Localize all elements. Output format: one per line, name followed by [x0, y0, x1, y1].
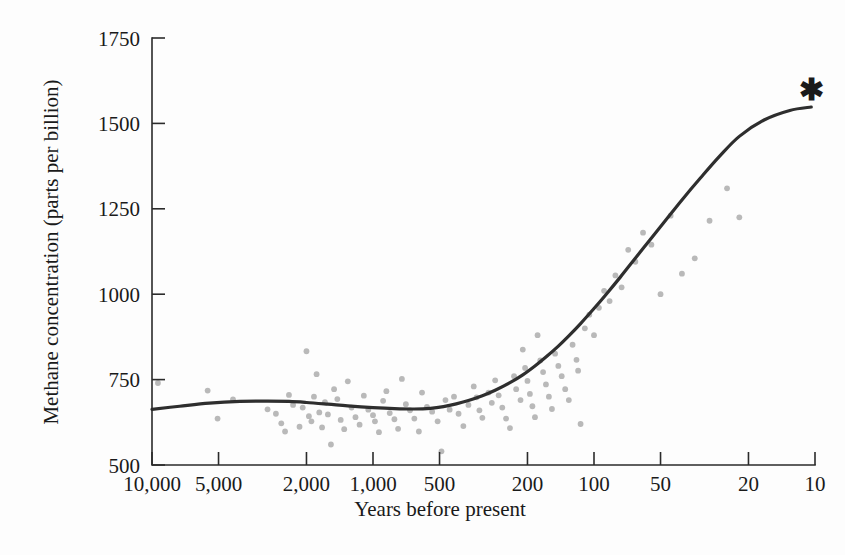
scatter-point [383, 388, 389, 394]
scatter-point [489, 400, 495, 406]
scatter-point [736, 214, 742, 220]
scatter-point [549, 406, 555, 412]
scatter-point [338, 417, 344, 423]
x-tick-label: 100 [578, 472, 610, 496]
scatter-point [679, 271, 685, 277]
scatter-point [535, 332, 541, 338]
scatter-point [319, 425, 325, 431]
scatter-point [341, 426, 347, 432]
scatter-point [306, 413, 312, 419]
scatter-point [692, 255, 698, 261]
scatter-point [265, 406, 271, 412]
scatter-point [403, 401, 409, 407]
x-tick-label: 10 [805, 472, 826, 496]
scatter-point [361, 393, 367, 399]
scatter-point [278, 420, 284, 426]
scatter-point [460, 423, 466, 429]
methane-concentration-chart: 5007501000125015001750 10,0005,0002,0001… [0, 0, 845, 555]
scatter-point [520, 347, 526, 353]
scatter-point [309, 418, 315, 424]
y-tick-label: 1250 [98, 197, 140, 221]
scatter-point [300, 405, 306, 411]
y-tick-label: 1500 [98, 112, 140, 136]
scatter-point [357, 422, 363, 428]
scatter-point [314, 371, 320, 377]
scatter-point [527, 391, 533, 397]
scatter-point [435, 418, 441, 424]
scatter-point [399, 376, 405, 382]
scatter-point [392, 416, 398, 422]
x-tick-label: 20 [738, 472, 759, 496]
scatter-point [325, 412, 331, 418]
scatter-point [334, 396, 340, 402]
scatter-point [591, 332, 597, 338]
scatter-point [507, 425, 513, 431]
x-tick-label: 1,000 [349, 472, 396, 496]
scatter-point [513, 386, 519, 392]
scatter-point [456, 411, 462, 417]
scatter-point [724, 185, 730, 191]
scatter-point [543, 381, 549, 387]
scatter-point [499, 405, 505, 411]
scatter-point [372, 418, 378, 424]
scatter-point [205, 388, 211, 394]
scatter-point [411, 416, 417, 422]
scatter-point [658, 291, 664, 297]
scatter-point [395, 426, 401, 432]
scatter-point [525, 378, 531, 384]
scatter-point [316, 409, 322, 415]
x-axis-title: Years before present [354, 497, 526, 521]
scatter-point [477, 407, 483, 413]
scatter-point [555, 363, 561, 369]
y-axis-title: Methane concentration (parts per billion… [39, 79, 63, 424]
y-tick-label: 1750 [98, 27, 140, 51]
scatter-point [345, 378, 351, 384]
scatter-point [282, 429, 288, 435]
scatter-point [370, 412, 376, 418]
y-tick-label: 750 [109, 368, 141, 392]
scatter-point [328, 442, 334, 448]
scatter-point [619, 284, 625, 290]
scatter-point [607, 298, 613, 304]
scatter-point [492, 377, 498, 383]
scatter-point [215, 416, 221, 422]
scatter-point [387, 410, 393, 416]
scatter-point [331, 386, 337, 392]
scatter-point [304, 348, 310, 354]
scatter-point [503, 416, 509, 422]
scatter-point [570, 342, 576, 348]
scatter-point [419, 390, 425, 396]
x-tick-label: 2,000 [283, 472, 330, 496]
scatter-point [532, 414, 538, 420]
scatter-point [578, 421, 584, 427]
x-tick-label: 50 [650, 472, 671, 496]
scatter-point [707, 218, 713, 224]
scatter-point [471, 384, 477, 390]
scatter-point [155, 380, 161, 386]
scatter-point [574, 357, 580, 363]
scatter-point [613, 273, 619, 279]
scatter-point [479, 415, 485, 421]
scatter-point [530, 403, 536, 409]
scatter-point [451, 394, 457, 400]
scatter-point [575, 368, 581, 374]
scatter-point [546, 394, 552, 400]
x-tick-label: 500 [424, 472, 456, 496]
x-tick-label: 200 [512, 472, 544, 496]
scatter-point [416, 429, 422, 435]
scatter-point [466, 402, 472, 408]
scatter-point [353, 414, 359, 420]
scatter-point [496, 392, 502, 398]
scatter-point [443, 397, 449, 403]
scatter-point [559, 373, 565, 379]
scatter-point [273, 411, 279, 417]
scatter-point [625, 247, 631, 253]
scatter-point [447, 407, 453, 413]
present-day-star-icon: ✱ [799, 73, 824, 106]
scatter-point [518, 397, 524, 403]
scatter-point [311, 394, 317, 400]
scatter-point [540, 369, 546, 375]
y-tick-label: 1000 [98, 283, 140, 307]
scatter-point [640, 230, 646, 236]
scatter-point [286, 392, 292, 398]
